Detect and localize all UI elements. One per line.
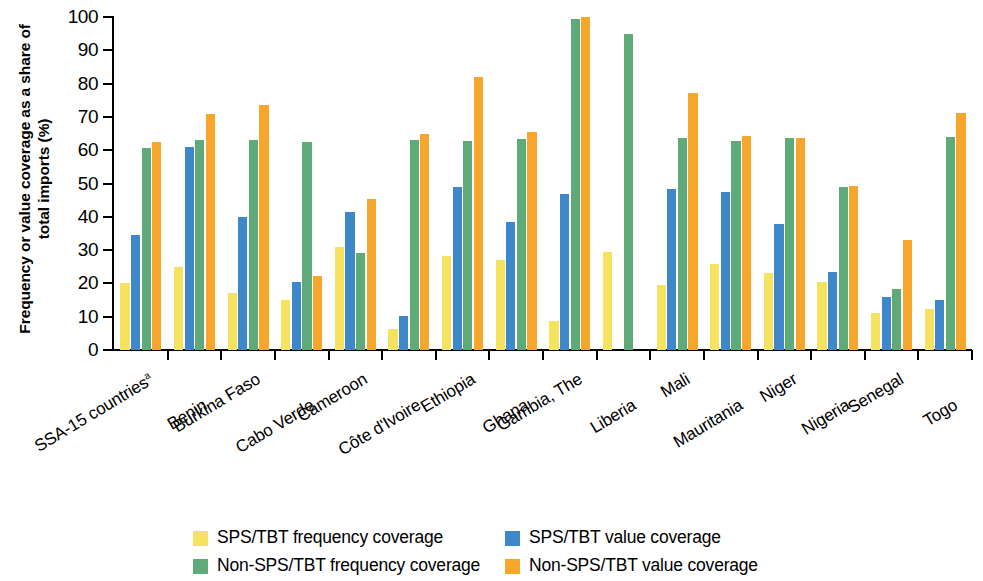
y-axis-tick <box>103 216 113 218</box>
bar <box>174 267 183 350</box>
bar-group <box>542 17 596 350</box>
y-axis-tick <box>103 316 113 318</box>
bar <box>399 316 408 350</box>
x-axis-tick <box>220 350 222 360</box>
chart-legend: SPS/TBT frequency coverage SPS/TBT value… <box>193 524 953 580</box>
bar <box>206 114 215 350</box>
bar <box>796 138 805 350</box>
y-axis-tick-label: 70 <box>52 107 98 126</box>
bar <box>571 19 580 350</box>
footnote-marker: a <box>142 369 152 381</box>
bar <box>152 142 161 350</box>
bar <box>463 141 472 350</box>
x-axis-label: Senegal <box>845 369 908 418</box>
x-axis-tick <box>810 350 812 360</box>
bar-group <box>113 17 167 350</box>
y-axis-tick <box>103 83 113 85</box>
x-axis-tick <box>542 350 544 360</box>
bar <box>195 140 204 350</box>
x-axis-label: Mali <box>657 369 693 402</box>
y-axis-tick <box>103 282 113 284</box>
bar <box>120 283 129 350</box>
legend-item-non-sps-tbt-frequency-coverage: Non-SPS/TBT frequency coverage <box>193 557 505 575</box>
legend-swatch-icon <box>505 559 520 574</box>
bar <box>828 272 837 350</box>
legend-swatch-icon <box>193 531 208 546</box>
bar <box>238 217 247 350</box>
bar <box>731 141 740 350</box>
y-axis-tick-label-wrap: 30 <box>48 240 98 260</box>
x-axis-label: Burkina Faso <box>170 369 264 436</box>
y-axis-tick <box>103 149 113 151</box>
bar-group <box>864 17 918 350</box>
y-axis-tick <box>103 16 113 18</box>
legend-label: Non-SPS/TBT value coverage <box>529 557 758 575</box>
bar <box>131 235 140 350</box>
bar <box>903 240 912 350</box>
bar <box>892 289 901 350</box>
y-axis-tick-label: 20 <box>52 273 98 292</box>
bar <box>474 77 483 350</box>
bar <box>453 187 462 350</box>
bar <box>356 253 365 350</box>
bar <box>721 192 730 350</box>
x-axis-label: Ethiopia <box>417 369 479 417</box>
bar <box>442 256 451 350</box>
bar <box>302 142 311 350</box>
x-axis-tick <box>328 350 330 360</box>
x-axis-tick <box>167 350 169 360</box>
legend-label: Non-SPS/TBT frequency coverage <box>217 557 480 575</box>
y-axis-tick <box>103 249 113 251</box>
y-axis-tick-label-wrap: 50 <box>48 174 98 194</box>
x-axis-label: Liberia <box>587 395 640 438</box>
x-axis-tick <box>971 350 973 360</box>
bar <box>560 194 569 351</box>
legend-row-1: SPS/TBT frequency coverage SPS/TBT value… <box>193 524 953 552</box>
bar <box>849 186 858 351</box>
bar <box>388 329 397 350</box>
bar-group <box>757 17 811 350</box>
legend-item-sps-tbt-value-coverage: SPS/TBT value coverage <box>505 529 721 547</box>
x-axis-tick <box>917 350 919 360</box>
x-axis-label: Niger <box>756 369 800 407</box>
bar-group <box>917 17 971 350</box>
bar <box>839 187 848 350</box>
y-axis-tick-label: 60 <box>52 140 98 159</box>
bar <box>882 297 891 350</box>
bar <box>946 137 955 350</box>
bar-group <box>649 17 703 350</box>
plot-area <box>113 17 971 350</box>
bar <box>292 282 301 350</box>
legend-label: SPS/TBT value coverage <box>529 529 721 547</box>
bar <box>785 138 794 350</box>
bar <box>249 140 258 350</box>
y-axis-tick-label-wrap: 80 <box>48 74 98 94</box>
legend-swatch-icon <box>193 559 208 574</box>
bar-group <box>220 17 274 350</box>
legend-label: SPS/TBT frequency coverage <box>217 529 443 547</box>
bar <box>764 273 773 350</box>
bar <box>935 300 944 350</box>
bar-group <box>488 17 542 350</box>
bar <box>496 260 505 350</box>
bar <box>527 132 536 350</box>
y-axis-tick <box>103 349 113 351</box>
bar-chart-figure: Frequency or value coverage as a share o… <box>0 0 983 581</box>
bar <box>313 276 322 350</box>
bar <box>817 282 826 350</box>
y-axis-tick-label: 90 <box>52 40 98 59</box>
x-axis-tick <box>435 350 437 360</box>
y-axis-tick <box>103 116 113 118</box>
bar <box>657 285 666 350</box>
bar <box>367 199 376 351</box>
y-axis-tick-label-wrap: 90 <box>48 40 98 60</box>
bar-group <box>703 17 757 350</box>
x-axis-tick <box>381 350 383 360</box>
x-axis-tick <box>649 350 651 360</box>
x-axis-tick <box>703 350 705 360</box>
bar <box>925 309 934 350</box>
legend-row-2: Non-SPS/TBT frequency coverage Non-SPS/T… <box>193 552 953 580</box>
x-axis-label: SSA-15 countriesa <box>31 369 157 456</box>
bar <box>581 17 590 350</box>
y-axis-tick <box>103 49 113 51</box>
